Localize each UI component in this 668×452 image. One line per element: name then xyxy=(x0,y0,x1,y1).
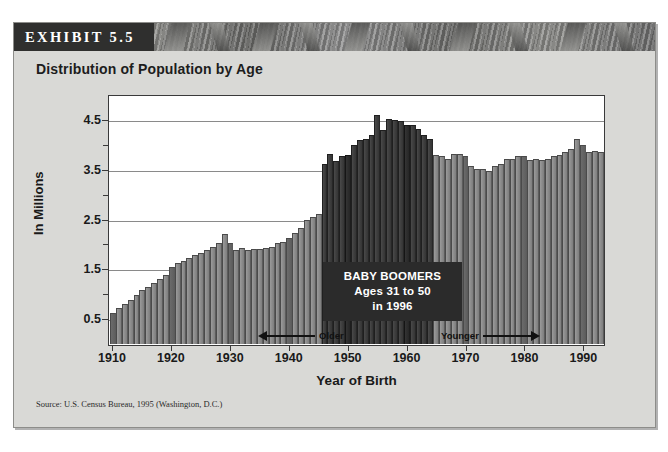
y-tick-label: 3.5 xyxy=(84,163,101,177)
chart-area: 0.51.52.53.54.5 191019201930194019501960… xyxy=(108,95,605,346)
y-tick-label: 0.5 xyxy=(84,312,101,326)
x-tick xyxy=(407,346,408,351)
younger-label: Younger xyxy=(441,330,479,341)
x-tick-label: 1910 xyxy=(98,351,126,365)
y-minor-tick xyxy=(103,195,108,196)
baby-boomer-callout: BABY BOOMERS Ages 31 to 50 in 1996 xyxy=(323,262,462,321)
arrow-line xyxy=(483,335,531,337)
arrow-line xyxy=(267,335,315,337)
x-tick-label: 1920 xyxy=(157,351,185,365)
x-tick xyxy=(524,346,525,351)
exhibit-banner: EXHIBIT 5.5 xyxy=(14,23,655,51)
x-tick-label: 1970 xyxy=(452,351,480,365)
x-tick xyxy=(230,346,231,351)
older-label: Older xyxy=(319,330,344,341)
older-arrow-annotation: Older xyxy=(258,330,344,341)
x-tick xyxy=(583,346,584,351)
y-tick xyxy=(102,170,108,171)
y-tick xyxy=(102,120,108,121)
x-tick-label: 1950 xyxy=(334,351,362,365)
y-tick xyxy=(102,220,108,221)
x-tick xyxy=(348,346,349,351)
y-minor-tick xyxy=(103,244,108,245)
y-minor-tick xyxy=(103,294,108,295)
x-tick xyxy=(466,346,467,351)
x-tick-label: 1930 xyxy=(216,351,244,365)
callout-line-3: in 1996 xyxy=(323,299,462,314)
x-tick-label: 1940 xyxy=(275,351,303,365)
x-tick xyxy=(289,346,290,351)
y-axis-label: In Millions xyxy=(31,171,46,235)
x-tick xyxy=(171,346,172,351)
y-tick-label: 2.5 xyxy=(84,213,101,227)
x-tick-label: 1980 xyxy=(511,351,539,365)
arrow-right-icon xyxy=(531,331,540,341)
source-note: Source: U.S. Census Bureau, 1995 (Washin… xyxy=(36,399,222,409)
exhibit-panel: EXHIBIT 5.5 Distribution of Population b… xyxy=(13,22,656,428)
y-tick-label: 1.5 xyxy=(84,262,101,276)
arrow-left-icon xyxy=(258,331,267,341)
callout-line-2: Ages 31 to 50 xyxy=(323,284,462,299)
x-tick-label: 1960 xyxy=(393,351,421,365)
page-title: Distribution of Population by Age xyxy=(36,61,263,77)
exhibit-tag-label: EXHIBIT 5.5 xyxy=(14,29,135,46)
x-tick xyxy=(112,346,113,351)
x-tick-label: 1990 xyxy=(569,351,597,365)
x-axis-label: Year of Birth xyxy=(108,373,605,388)
y-tick xyxy=(102,269,108,270)
y-minor-tick xyxy=(103,145,108,146)
exhibit-tag: EXHIBIT 5.5 xyxy=(14,23,154,51)
younger-arrow-annotation: Younger xyxy=(441,330,540,341)
y-tick xyxy=(102,319,108,320)
y-tick-label: 4.5 xyxy=(84,113,101,127)
bar xyxy=(598,152,604,344)
callout-line-1: BABY BOOMERS xyxy=(323,269,462,284)
